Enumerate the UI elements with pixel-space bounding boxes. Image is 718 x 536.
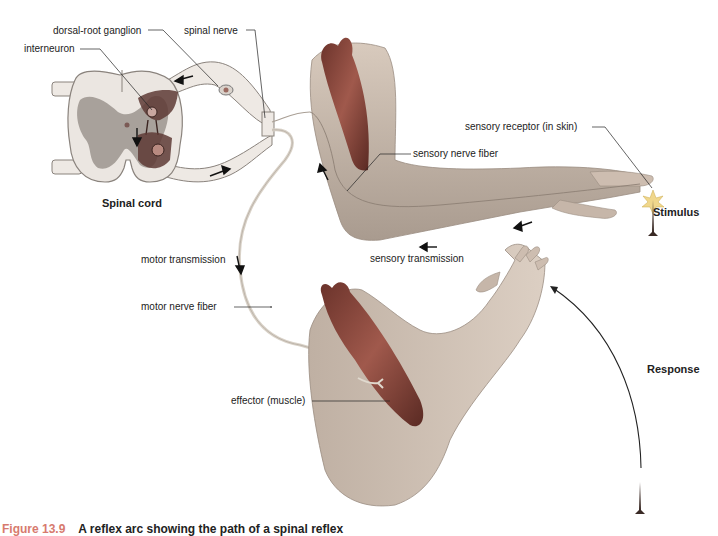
figure-caption-text: A reflex arc showing the path of a spina… [78,522,343,536]
label-motor-transmission: motor transmission [141,254,225,266]
label-motor-nerve-fiber: motor nerve fiber [141,301,217,313]
response-pin [635,482,645,514]
response-arc [553,288,641,468]
upper-arm [310,38,653,240]
spinal-cord [52,62,274,182]
label-spinal-nerve: spinal nerve [184,25,238,37]
spinal-nerve-trunk [262,112,274,136]
label-dorsal-root-ganglion: dorsal-root ganglion [53,25,141,37]
figure-number: Figure 13.9 [2,522,65,536]
label-response: Response [647,363,700,375]
label-sensory-nerve-fiber: sensory nerve fiber [413,148,498,160]
figure-caption: Figure 13.9 A reflex arc showing the pat… [2,522,343,536]
label-stimulus: Stimulus [653,206,699,218]
label-effector-muscle: effector (muscle) [231,395,305,407]
label-interneuron: interneuron [24,43,75,55]
lower-arm [309,244,549,506]
label-spinal-cord: Spinal cord [102,197,162,209]
label-sensory-receptor: sensory receptor (in skin) [465,121,577,133]
label-sensory-transmission: sensory transmission [370,253,464,265]
